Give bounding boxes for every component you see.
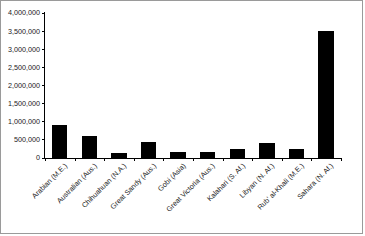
y-axis-tick-label: 1,000,000 — [8, 118, 40, 125]
bar — [259, 143, 274, 158]
bar-slot — [104, 13, 134, 158]
x-axis-tick-mark — [282, 158, 283, 161]
y-axis-tick-label: 4,000,000 — [8, 9, 40, 16]
x-axis-tick-mark — [223, 158, 224, 161]
x-axis-tick-mark — [75, 158, 76, 161]
x-axis-tick-mark — [134, 158, 135, 161]
bar-chart-figure: 0500,0001,000,0001,500,0002,000,0002,500… — [0, 0, 363, 234]
y-axis-tick-label: 0 — [36, 154, 40, 161]
bar — [289, 149, 304, 158]
y-axis-tick-label: 3,000,000 — [8, 45, 40, 52]
bar-slot — [193, 13, 223, 158]
x-axis-tick-mark — [45, 158, 46, 161]
bar — [141, 142, 156, 158]
bar-slot — [311, 13, 341, 158]
bar-slot — [163, 13, 193, 158]
bar — [52, 125, 67, 158]
bar — [200, 152, 215, 158]
y-axis-tick-label: 500,000 — [14, 136, 40, 143]
bar — [111, 153, 126, 158]
bar-series-container — [45, 13, 341, 158]
x-axis-tick-mark — [163, 158, 164, 161]
bar-slot — [45, 13, 75, 158]
bar — [230, 149, 245, 158]
x-axis-label-group: Arabian (M.E.)Australian (Aus.)Chihuahua… — [45, 162, 341, 236]
x-axis-tick-mark — [341, 158, 342, 161]
bar-slot — [75, 13, 105, 158]
y-axis-tick-label: 1,500,000 — [8, 100, 40, 107]
x-axis-tick-mark — [104, 158, 105, 161]
bar-slot — [223, 13, 253, 158]
y-axis-tick-label: 3,500,000 — [8, 27, 40, 34]
y-axis-tick-label: 2,500,000 — [8, 63, 40, 70]
bar — [170, 152, 185, 158]
x-axis-tick-mark — [252, 158, 253, 161]
bar-slot — [252, 13, 282, 158]
bar — [82, 136, 97, 158]
plot-area — [45, 13, 341, 158]
bar-slot — [282, 13, 312, 158]
x-axis-tick-mark — [193, 158, 194, 161]
bar-slot — [134, 13, 164, 158]
x-axis-tick-mark — [311, 158, 312, 161]
bar — [318, 31, 333, 158]
y-axis-tick-label: 2,000,000 — [8, 81, 40, 88]
